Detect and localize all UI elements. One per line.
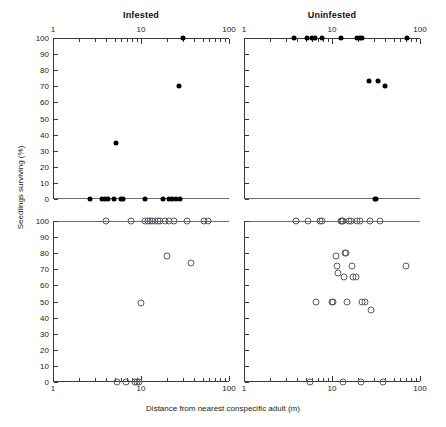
data-point (341, 274, 348, 281)
data-point (161, 197, 166, 202)
data-point (304, 218, 311, 225)
data-point (403, 263, 410, 270)
y-tick (245, 237, 249, 238)
y-tick (245, 350, 249, 351)
data-point (338, 36, 343, 41)
y-tick-label: 20 (29, 162, 49, 171)
x-tick (385, 39, 386, 42)
x-tick (332, 39, 333, 44)
x-tick (411, 39, 412, 42)
x-tick (420, 376, 421, 381)
y-tick (245, 366, 249, 367)
y-tick (54, 135, 58, 136)
y-tick (245, 183, 249, 184)
x-tick (297, 39, 298, 42)
x-tick (411, 378, 412, 381)
x-tick (318, 378, 319, 381)
x-tick (400, 378, 401, 381)
panel-title-infested: Infested (53, 10, 229, 20)
x-tick (416, 39, 417, 42)
x-tick (374, 39, 375, 42)
y-tick (245, 151, 249, 152)
y-tick (54, 54, 58, 55)
x-tick (270, 378, 271, 381)
data-point (366, 218, 373, 225)
x-tick (194, 39, 195, 42)
data-point (123, 379, 130, 386)
x-tick (167, 39, 168, 42)
y-tick (245, 302, 249, 303)
data-point (171, 218, 178, 225)
x-tick-label: 1 (51, 384, 55, 393)
y-tick (54, 221, 58, 222)
data-point (305, 36, 310, 41)
y-tick (245, 199, 249, 200)
x-tick-label: 10 (328, 25, 337, 34)
x-tick-label: 1 (242, 384, 246, 393)
data-point (368, 306, 375, 313)
y-tick (245, 221, 249, 222)
x-tick (215, 378, 216, 381)
x-tick (106, 39, 107, 42)
x-tick-label: 1 (242, 25, 246, 34)
data-point (138, 300, 145, 307)
y-tick (245, 334, 249, 335)
data-point (114, 140, 119, 145)
x-tick (323, 39, 324, 42)
x-tick (137, 39, 138, 42)
x-tick-label: 100 (222, 25, 235, 34)
y-tick-label: 0 (29, 195, 49, 204)
x-tick (332, 376, 333, 381)
y-tick (54, 269, 58, 270)
x-tick (53, 376, 54, 381)
data-point (205, 218, 212, 225)
x-tick (286, 378, 287, 381)
y-tick (54, 151, 58, 152)
y-tick-label: 60 (29, 281, 49, 290)
data-point (105, 197, 110, 202)
y-tick (245, 119, 249, 120)
y-tick (54, 102, 58, 103)
x-tick (95, 39, 96, 42)
y-tick-label: 20 (29, 345, 49, 354)
y-tick-label: 100 (29, 217, 49, 226)
y-tick (54, 334, 58, 335)
x-tick (121, 39, 122, 42)
data-point (343, 250, 350, 257)
x-tick (229, 39, 230, 44)
y-tick-label: 90 (29, 50, 49, 59)
plot-area: 110100 (244, 221, 420, 382)
y-tick-label: 10 (29, 361, 49, 370)
x-tick (416, 378, 417, 381)
y-tick (54, 167, 58, 168)
y-tick (54, 302, 58, 303)
data-point (382, 84, 387, 89)
y-tick (54, 38, 58, 39)
y-tick (245, 382, 249, 383)
plot-area: 110100 (244, 38, 420, 199)
x-tick-label: 100 (413, 384, 426, 393)
data-point (374, 197, 379, 202)
x-tick (328, 39, 329, 42)
data-point (349, 263, 356, 270)
x-tick-label: 100 (413, 25, 426, 34)
x-tick (203, 39, 204, 42)
x-tick (394, 378, 395, 381)
x-tick (167, 378, 168, 381)
x-tick (328, 378, 329, 381)
y-tick-label: 10 (29, 178, 49, 187)
y-axis-label: Seedlings surviving (%) (16, 118, 25, 258)
data-point (375, 79, 380, 84)
y-tick (54, 119, 58, 120)
data-point (330, 298, 337, 305)
x-axis-label: Distance from nearest conspecific adult … (0, 404, 446, 413)
x-tick (95, 378, 96, 381)
x-tick (220, 378, 221, 381)
data-point (188, 259, 195, 266)
y-tick (54, 237, 58, 238)
figure-scatter-panels: Infested Uninfested Seedlings surviving … (0, 0, 446, 427)
data-point (121, 197, 126, 202)
x-tick-label: 1 (51, 25, 55, 34)
y-tick (245, 86, 249, 87)
x-tick (406, 378, 407, 381)
